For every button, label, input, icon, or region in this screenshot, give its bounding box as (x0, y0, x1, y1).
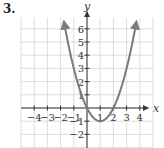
parabola-chart: xy −4−3−2−11234−2−1123456 (0, 0, 164, 148)
y-tick-label: 3 (78, 63, 84, 74)
y-axis-label: y (83, 0, 91, 13)
x-axis-label: x (153, 102, 160, 115)
y-tick-label: 5 (78, 37, 84, 48)
curve-start-arrow (64, 24, 65, 28)
axes: xy (21, 0, 160, 148)
ticks: −4−3−2−11234−2−1123456 (27, 24, 143, 141)
x-tick-label: 3 (123, 112, 129, 123)
y-tick-label: 4 (78, 50, 84, 61)
y-tick-label: 6 (78, 24, 84, 35)
y-tick-label: −2 (69, 129, 84, 140)
x-tick-label: 4 (137, 112, 143, 123)
y-tick-label: −1 (69, 116, 84, 127)
